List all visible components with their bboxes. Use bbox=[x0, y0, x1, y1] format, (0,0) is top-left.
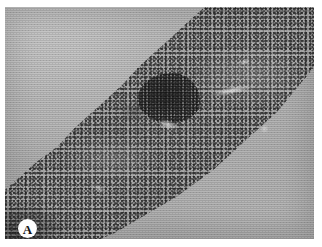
panel-label-badge: A bbox=[18, 219, 37, 238]
micrograph-image: A bbox=[5, 7, 314, 239]
panel-label-text: A bbox=[23, 223, 32, 236]
vignette-overlay bbox=[5, 7, 314, 239]
figure-panel: A bbox=[0, 0, 322, 247]
